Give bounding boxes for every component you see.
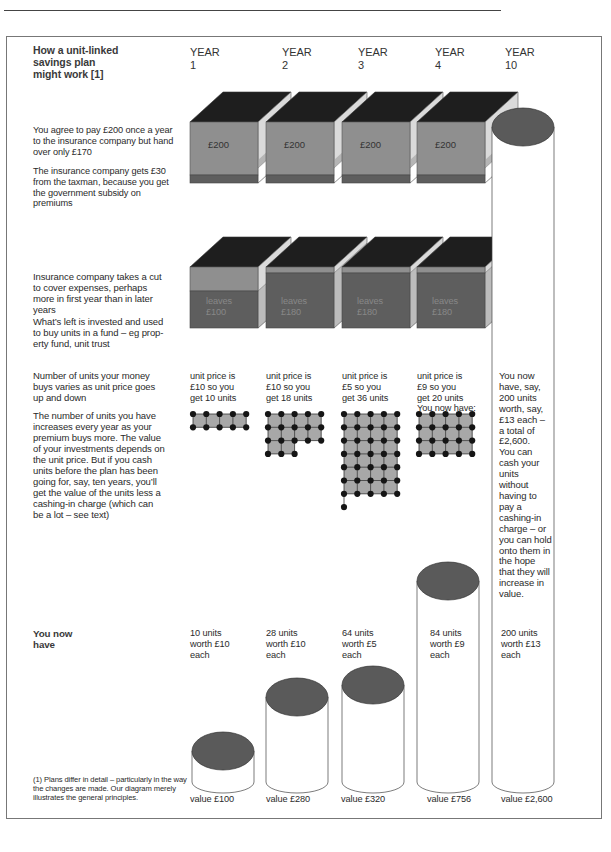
year-header-1: YEAR 1	[190, 46, 220, 71]
payment-label-year-1: £200	[208, 139, 229, 150]
cylinder-year-2	[266, 678, 328, 793]
footnote: (1) Plans differ in detail – particularl…	[33, 775, 187, 803]
year-header-2: YEAR 2	[282, 46, 312, 71]
holding-text-year-10: 200 units worth £13 each	[501, 628, 540, 660]
value-year-2: value £280	[266, 794, 310, 805]
unit-price-text-year-4: unit price is £9 so you get 20 units You…	[417, 371, 476, 414]
year-header-10: YEAR 10	[505, 46, 535, 71]
value-year-10: value £2,600	[501, 794, 552, 805]
payment-text: You agree to pay £200 once a year to the…	[33, 125, 173, 157]
expenses-text: Insurance company takes a cut to cover e…	[33, 271, 162, 315]
value-year-3: value £320	[341, 794, 385, 805]
holding-text-year-1: 10 units worth £10 each	[190, 628, 229, 660]
unit-price-text-year-1: unit price is £10 so you get 10 units	[190, 371, 236, 403]
value-year-1: value £100	[190, 794, 234, 805]
payment-label-year-2: £200	[284, 139, 305, 150]
holding-text-year-3: 64 units worth £5 each	[342, 628, 376, 660]
year-10-summary-text: You now have, say, 200 units worth, say,…	[499, 371, 552, 600]
units-increase-text: The number of units you have increases e…	[33, 410, 165, 520]
value-year-4: value £756	[427, 794, 471, 805]
unit-grids	[190, 411, 475, 510]
leaves-label-year-2: leaves £180	[281, 296, 307, 318]
tax-subsidy-text: The insurance company gets £30 from the …	[33, 166, 169, 209]
leaves-label-year-1: leaves £100	[206, 296, 232, 318]
diagram-title: How a unit-linked savings plan might wor…	[33, 44, 118, 80]
cylinder-year-1	[192, 732, 254, 793]
year-header-3: YEAR 3	[358, 46, 388, 71]
year-header-4: YEAR 4	[435, 46, 465, 71]
you-now-have-label: You now have	[33, 628, 72, 650]
leaves-label-year-4: leaves £180	[432, 296, 458, 318]
payment-label-year-3: £200	[360, 139, 381, 150]
payment-label-year-4: £200	[435, 139, 456, 150]
cylinder-year-4	[417, 562, 479, 793]
unit-price-text-year-2: unit price is £10 so you get 18 units	[266, 371, 312, 403]
units-vary-text: Number of units your money buys varies a…	[33, 370, 155, 403]
cylinder-year-3	[342, 666, 404, 793]
invested-text: What’s left is invested and used to buy …	[33, 316, 163, 349]
holding-text-year-4: 84 units worth £9 each	[430, 628, 464, 660]
unit-price-text-year-3: unit price is £5 so you get 36 units	[342, 371, 388, 403]
leaves-label-year-3: leaves £180	[357, 296, 383, 318]
holding-text-year-2: 28 units worth £10 each	[266, 628, 305, 660]
